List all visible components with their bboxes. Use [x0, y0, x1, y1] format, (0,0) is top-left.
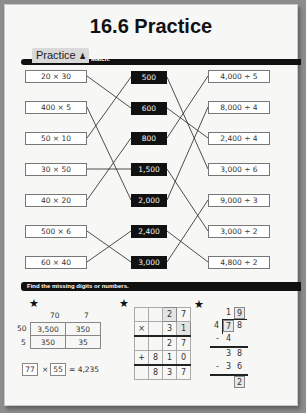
- dividend-digit: 7: [223, 320, 234, 332]
- long-multiplication-grid: 2 7 × 3 1 2 7 + 8 1 0 8 3 7: [134, 307, 191, 380]
- dividend-digit: 8: [234, 320, 245, 332]
- worksheet-page: 16.6 Practice Practice♟ Match. 20 × 30 4…: [4, 4, 298, 406]
- row-header: 5: [21, 338, 26, 347]
- step-digit: 8: [234, 348, 245, 360]
- mult-cell: 7: [177, 365, 191, 380]
- star-icon: ★: [119, 297, 129, 310]
- middle-value: 2,000: [131, 194, 167, 207]
- step-digit: 4: [223, 333, 234, 345]
- mult-cell: [149, 308, 163, 322]
- area-cell: 3,500: [31, 323, 66, 336]
- mult-cell: 3: [163, 365, 177, 380]
- mult-cell: 7: [177, 308, 191, 322]
- mult-cell: [135, 308, 149, 322]
- col-header: 7: [84, 311, 89, 320]
- step-digit: 3: [223, 361, 234, 373]
- mult-cell: 0: [177, 351, 191, 366]
- divisor: 4: [211, 320, 222, 332]
- right-expression: 8,000 ÷ 4: [208, 101, 270, 114]
- area-model-grid: 3,500 350 350 35: [30, 322, 101, 349]
- middle-value: 2,400: [131, 225, 167, 238]
- mult-cell: 7: [177, 336, 191, 351]
- find-instruction: Find the missing digits or numbers.: [27, 282, 129, 291]
- mult-cell: [135, 365, 149, 380]
- left-expression: 500 × 6: [25, 225, 87, 238]
- mult-cell: 1: [177, 322, 191, 337]
- left-expression: 50 × 10: [25, 132, 87, 145]
- row-header: 50: [17, 324, 27, 333]
- middle-value: 600: [131, 102, 167, 115]
- matching-lines: [5, 5, 297, 285]
- mult-cell: 8: [149, 365, 163, 380]
- step-digit: 6: [234, 361, 245, 373]
- mult-cell: [135, 336, 149, 351]
- mult-cell: ×: [135, 322, 149, 337]
- left-expression: 30 × 50: [25, 163, 87, 176]
- star-icon: ★: [194, 298, 204, 311]
- right-expression: 9,000 ÷ 3: [208, 194, 270, 207]
- step-digit: 3: [223, 348, 234, 360]
- mult-cell: 8: [149, 351, 163, 366]
- factor2-box: 55: [50, 363, 66, 376]
- middle-value: 1,500: [131, 163, 167, 176]
- area-cell: 350: [66, 323, 101, 336]
- middle-value: 800: [131, 132, 167, 145]
- left-expression: 60 × 40: [25, 256, 87, 269]
- mult-cell: [149, 322, 163, 337]
- product-result: = 4,235: [69, 365, 99, 374]
- mult-cell: [149, 336, 163, 351]
- right-expression: 4,800 ÷ 2: [208, 256, 270, 269]
- minus-sign: -: [212, 361, 223, 373]
- left-expression: 400 × 5: [25, 101, 87, 114]
- middle-value: 500: [131, 71, 167, 84]
- area-cell: 350: [31, 336, 66, 349]
- col-header: 70: [50, 311, 60, 320]
- quotient-digit: 1: [223, 307, 234, 319]
- times-sign: ×: [42, 365, 48, 374]
- remainder: 2: [234, 376, 245, 388]
- area-cell: 35: [66, 336, 101, 349]
- left-expression: 20 × 30: [25, 70, 87, 83]
- mult-cell: 2: [163, 336, 177, 351]
- right-expression: 4,000 ÷ 5: [208, 70, 270, 83]
- star-icon: ★: [29, 297, 39, 310]
- left-expression: 40 × 20: [25, 194, 87, 207]
- quotient-digit: 9: [234, 307, 245, 319]
- right-expression: 3,000 ÷ 6: [208, 163, 270, 176]
- mult-cell: 1: [163, 351, 177, 366]
- mult-cell: +: [135, 351, 149, 366]
- right-expression: 3,000 ÷ 2: [208, 225, 270, 238]
- factor1-box: 77: [22, 363, 38, 376]
- minus-sign: -: [212, 333, 223, 345]
- mult-cell: 2: [163, 308, 177, 322]
- middle-value: 3,000: [131, 256, 167, 269]
- mult-cell: 3: [163, 322, 177, 337]
- right-expression: 2,400 ÷ 4: [208, 132, 270, 145]
